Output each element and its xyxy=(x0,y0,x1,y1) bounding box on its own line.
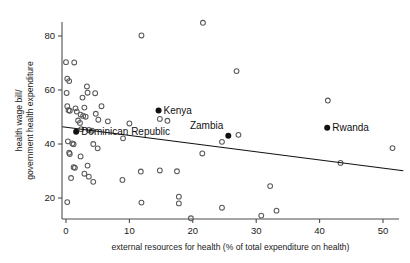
data-point-open-circle xyxy=(82,105,87,110)
scatter-plot-figure: 2040608001020304050 KenyaDominican Repub… xyxy=(0,0,410,263)
data-point-open-circle xyxy=(139,200,144,205)
x-tick-label: 50 xyxy=(378,225,389,236)
x-axis-title: external resources for health (% of tota… xyxy=(112,242,350,252)
data-point-open-circle xyxy=(86,174,91,179)
data-point-open-circle xyxy=(64,60,69,65)
data-point-open-circle xyxy=(259,213,264,218)
data-point-open-circle xyxy=(96,117,101,122)
data-point-open-circle xyxy=(93,111,98,116)
data-point-open-circle xyxy=(201,20,206,25)
data-point-open-circle xyxy=(236,132,241,137)
y-tick-label: 60 xyxy=(44,84,55,95)
data-point-open-circle xyxy=(91,179,96,184)
data-point-open-circle xyxy=(139,33,144,38)
point-label-kenya: Kenya xyxy=(164,105,193,116)
data-point-open-circle xyxy=(120,178,125,183)
axis-titles: external resources for health (% of tota… xyxy=(14,61,350,252)
data-point-open-circle xyxy=(65,200,70,205)
data-point-open-circle xyxy=(95,146,100,151)
data-point-filled-zambia xyxy=(225,133,231,139)
data-point-open-circle xyxy=(220,139,225,144)
data-point-open-circle xyxy=(64,91,69,96)
data-point-open-circle xyxy=(220,205,225,210)
data-point-open-circle xyxy=(325,98,330,103)
data-point-open-circle xyxy=(85,163,90,168)
data-point-filled-kenya xyxy=(156,108,162,114)
point-label-zambia: Zambia xyxy=(190,120,224,131)
data-point-open-circle xyxy=(234,69,239,74)
chart-canvas: 2040608001020304050 KenyaDominican Repub… xyxy=(0,0,410,263)
y-tick-label: 40 xyxy=(44,138,55,149)
highlighted-data-points: KenyaDominican RepublicZambiaRwanda xyxy=(73,105,369,139)
data-point-open-circle xyxy=(91,142,96,147)
data-point-open-circle xyxy=(274,208,279,213)
data-point-open-circle xyxy=(93,91,98,96)
data-point-open-circle xyxy=(85,90,90,95)
data-point-open-circle xyxy=(165,118,170,123)
y-axis-title-line2: government health expenditure xyxy=(25,61,35,180)
axes xyxy=(62,22,399,219)
data-points xyxy=(64,20,395,220)
data-point-open-circle xyxy=(268,184,273,189)
y-axis-title-line1: health wage bill/ xyxy=(14,89,24,151)
x-tick-label: 0 xyxy=(63,225,68,236)
data-point-open-circle xyxy=(72,60,77,65)
data-point-filled-rwanda xyxy=(324,125,330,131)
data-point-filled-dominican-republic xyxy=(73,129,79,135)
data-point-open-circle xyxy=(78,154,83,159)
data-point-open-circle xyxy=(200,151,205,156)
data-point-open-circle xyxy=(82,171,87,176)
y-tick-label: 80 xyxy=(44,30,55,41)
x-tick-label: 20 xyxy=(188,225,199,236)
data-point-open-circle xyxy=(176,194,181,199)
x-tick-label: 40 xyxy=(314,225,325,236)
data-point-open-circle xyxy=(105,119,110,124)
point-label-rwanda: Rwanda xyxy=(332,122,369,133)
data-point-open-circle xyxy=(176,201,181,206)
data-point-open-circle xyxy=(189,216,194,221)
data-point-open-circle xyxy=(390,146,395,151)
data-point-open-circle xyxy=(85,84,90,89)
x-tick-label: 30 xyxy=(251,225,262,236)
y-tick-label: 20 xyxy=(44,192,55,203)
data-point-open-circle xyxy=(80,95,85,100)
x-tick-label: 10 xyxy=(124,225,135,236)
data-point-open-circle xyxy=(138,169,143,174)
data-point-open-circle xyxy=(157,116,162,121)
data-point-open-circle xyxy=(157,168,162,173)
data-point-open-circle xyxy=(175,169,180,174)
point-label-dominican-republic: Dominican Republic xyxy=(81,126,170,137)
data-point-open-circle xyxy=(69,176,74,181)
data-point-open-circle xyxy=(99,104,104,109)
